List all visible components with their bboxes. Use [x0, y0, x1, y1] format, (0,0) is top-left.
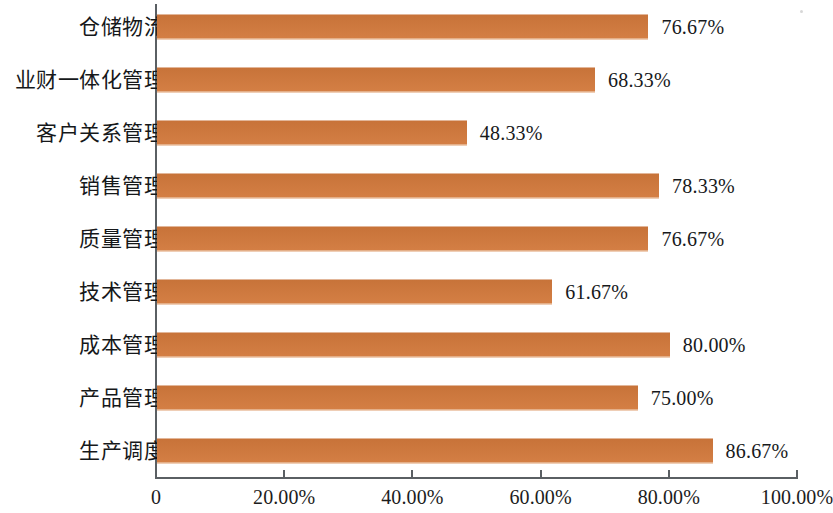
- bar: [157, 120, 467, 145]
- bar: [157, 67, 595, 92]
- x-axis-tick-label: 100.00%: [761, 485, 833, 509]
- category-label: 技术管理: [79, 279, 165, 305]
- bar-value-label: 78.33%: [672, 174, 735, 198]
- x-axis-tick-label: 80.00%: [638, 485, 700, 509]
- category-label: 销售管理: [79, 173, 165, 199]
- x-axis-tick-label: 60.00%: [509, 485, 571, 509]
- bar-value-label: 48.33%: [480, 121, 543, 145]
- x-axis-tick-label: 40.00%: [381, 485, 443, 509]
- bar-row: 生产调度86.67%: [0, 424, 828, 477]
- scan-artifact: [800, 10, 803, 13]
- bar-row: 技术管理61.67%: [0, 265, 828, 318]
- x-axis-line: [155, 477, 798, 479]
- bar-row: 成本管理80.00%: [0, 318, 828, 371]
- bar: [157, 385, 638, 410]
- bar-value-label: 86.67%: [726, 439, 789, 463]
- x-axis-tick-label: 0: [151, 485, 161, 509]
- bar-row: 产品管理75.00%: [0, 371, 828, 424]
- bar-row: 质量管理76.67%: [0, 212, 828, 265]
- bar-value-label: 68.33%: [608, 68, 671, 92]
- bar: [157, 332, 670, 357]
- bar-row: 客户关系管理48.33%: [0, 106, 828, 159]
- bar-value-label: 76.67%: [661, 227, 724, 251]
- bar-value-label: 80.00%: [683, 333, 746, 357]
- bar-value-label: 75.00%: [651, 386, 714, 410]
- bar-value-label: 61.67%: [565, 280, 628, 304]
- bar: [157, 438, 713, 463]
- bar-row: 销售管理78.33%: [0, 159, 828, 212]
- bar: [157, 173, 659, 198]
- bar: [157, 226, 648, 251]
- category-label: 生产调度: [79, 438, 165, 464]
- bar: [157, 14, 648, 39]
- bar-value-label: 76.67%: [661, 15, 724, 39]
- category-label: 客户关系管理: [36, 120, 165, 146]
- category-label: 产品管理: [79, 385, 165, 411]
- category-label: 仓储物流: [79, 14, 165, 40]
- bar: [157, 279, 552, 304]
- bar-row: 仓储物流76.67%: [0, 0, 828, 53]
- bar-row: 业财一体化管理68.33%: [0, 53, 828, 106]
- x-axis-tick-label: 20.00%: [253, 485, 315, 509]
- category-label: 质量管理: [79, 226, 165, 252]
- category-label: 成本管理: [79, 332, 165, 358]
- category-label: 业财一体化管理: [15, 67, 166, 93]
